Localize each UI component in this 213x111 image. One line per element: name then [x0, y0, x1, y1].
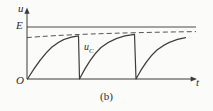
y-axis-arrow-icon	[24, 8, 29, 14]
envelope-dashed-curve	[27, 32, 196, 38]
figure-caption: (b)	[0, 90, 213, 102]
capacitor-voltage-curve	[28, 34, 186, 79]
figure-container: u E O t uC (b)	[0, 0, 213, 111]
curve-label-subscript: C	[89, 47, 94, 55]
level-label-E: E	[16, 20, 23, 31]
x-axis-label: t	[196, 77, 199, 88]
y-axis-label: u	[18, 3, 24, 14]
curve-label-uc: uC	[84, 42, 94, 55]
origin-label: O	[16, 75, 24, 86]
